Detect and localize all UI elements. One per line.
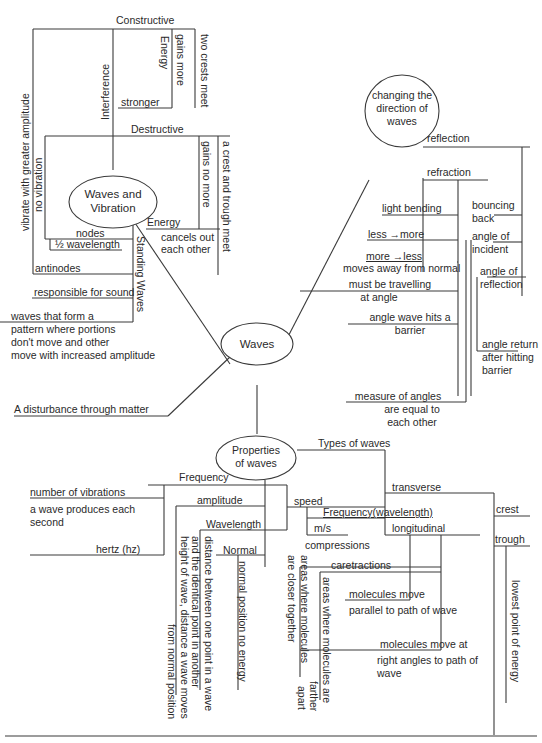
- label-energy-1: Energy: [158, 36, 171, 69]
- label-amplitude-def: height of wave, distance a wave moves fr…: [165, 536, 191, 719]
- label-speed: speed: [294, 495, 323, 508]
- label-trough: trough: [495, 533, 525, 546]
- waves-node[interactable]: Waves: [221, 337, 293, 351]
- label-hertz: hertz (hz): [96, 543, 140, 556]
- label-reflection: reflection: [427, 132, 470, 145]
- label-responsible-sound: responsible for sound: [34, 286, 134, 299]
- label-no-vibration: no vibration: [32, 158, 45, 212]
- angle-return-line-2: after hitting: [482, 351, 538, 364]
- label-bouncing-back: bouncing back: [472, 199, 515, 225]
- angle-reflection-line-1: angle of: [480, 265, 523, 278]
- label-number-vibrations: number of vibrations: [30, 486, 125, 499]
- label-destructive: Destructive: [131, 123, 184, 136]
- properties-node[interactable]: Properties of waves: [216, 444, 296, 470]
- label-frequency: Frequency: [179, 471, 229, 484]
- label-energy-2: Energy: [147, 216, 180, 229]
- wavelength-def-line-1: distance between one point in a wave: [202, 536, 215, 711]
- label-half-wavelength: ½ wavelength: [55, 238, 120, 251]
- rarefaction-def-line-1: areas where molecules are: [320, 577, 333, 711]
- bouncing-back-line-2: back: [472, 212, 515, 225]
- label-normal-position: normal position no energy: [236, 561, 249, 682]
- label-gains-no-more: gains no more: [200, 141, 213, 208]
- label-interference: Interference: [99, 64, 112, 120]
- angle-return-line-3: barrier: [482, 364, 538, 377]
- measure-angles-line-2: are equal to: [364, 403, 460, 416]
- rarefaction-def-line-2: farther: [307, 577, 320, 711]
- label-rarefaction-apart: apart: [295, 686, 308, 710]
- label-stronger: stronger: [121, 96, 160, 109]
- amplitude-def-line-2: from normal position: [165, 536, 178, 719]
- label-cancels-out: cancels out each other: [161, 231, 214, 255]
- label-ms: m/s: [314, 522, 331, 535]
- standing-def-line-3: don't move and other: [11, 336, 155, 349]
- label-measure-angles: measure of angles are equal to each othe…: [350, 390, 460, 429]
- label-angle-reflection: angle of reflection: [480, 265, 523, 291]
- molecules-parallel-line-1: molecules move: [349, 588, 457, 601]
- changing-direction-line-2: direction of: [365, 102, 439, 115]
- waves-vibration-node[interactable]: Waves and Vibration: [69, 187, 157, 215]
- angle-incident-line-1: angle of: [472, 230, 509, 243]
- bouncing-back-line-1: bouncing: [472, 199, 515, 212]
- standing-def-line-2: pattern where portions: [11, 323, 155, 336]
- molecules-right-line-3: wave: [377, 667, 478, 680]
- cancels-out-line-1: cancels out: [161, 231, 214, 243]
- label-antinodes: antinodes: [35, 262, 81, 275]
- label-wavelength: Wavelength: [206, 518, 261, 531]
- label-standing-waves: Standing Waves: [134, 236, 147, 312]
- measure-angles-line-3: each other: [364, 416, 460, 429]
- concept-map-canvas: Waves Waves and Vibration changing the d…: [0, 0, 542, 743]
- label-molecules-parallel: molecules move parallel to path of wave: [349, 588, 457, 617]
- label-less-more: less →more: [368, 228, 424, 241]
- label-gains-more: gains more: [174, 34, 187, 86]
- label-refraction: refraction: [427, 166, 471, 179]
- label-normal: Normal: [223, 544, 257, 557]
- label-vibrate-greater: vibrate with greater amplitude: [19, 93, 32, 231]
- angle-reflection-line-2: reflection: [480, 278, 523, 291]
- waves-vibration-line-2: Vibration: [69, 201, 157, 215]
- label-amplitude: amplitude: [197, 494, 243, 507]
- properties-line-2: of waves: [216, 457, 296, 470]
- waves-node-label: Waves: [240, 338, 275, 350]
- label-two-crests-meet: two crests meet: [198, 34, 211, 108]
- changing-direction-line-3: waves: [365, 115, 439, 128]
- wave-produces-line-2: second: [30, 516, 135, 529]
- connector-lines: [0, 0, 542, 743]
- label-wave-produces: a wave produces each second: [30, 503, 135, 529]
- label-longitudinal: longitudinal: [392, 522, 445, 535]
- label-wavelength-def: distance between one point in a wave and…: [189, 536, 215, 711]
- measure-angles-line-1: measure of angles: [336, 390, 460, 403]
- must-travel-line-1: must be travelling: [335, 278, 445, 291]
- label-crest-trough-meet: a crest and trough meet: [220, 141, 233, 252]
- angle-wave-hits-line-2: barrier: [365, 324, 455, 337]
- label-crest: crest: [496, 503, 519, 516]
- angle-incident-line-2: incident: [472, 243, 509, 256]
- angle-return-line-1: angle return: [482, 338, 538, 351]
- label-rarefaction-def: areas where molecules are farther: [307, 577, 333, 711]
- molecules-right-line-1: molecules move at: [377, 638, 478, 651]
- label-molecules-right: molecules move at right angles to path o…: [377, 638, 478, 680]
- label-freq-wavelength: Frequency(wavelength): [323, 506, 433, 519]
- cancels-out-line-2: each other: [161, 243, 214, 255]
- label-constructive: Constructive: [116, 14, 174, 27]
- label-light-bending: light bending: [382, 202, 442, 215]
- label-standing-definition: waves that form a pattern where portions…: [11, 310, 155, 362]
- changing-direction-node[interactable]: changing the direction of waves: [365, 89, 439, 128]
- amplitude-def-line-1: height of wave, distance a wave moves: [178, 536, 191, 719]
- properties-line-1: Properties: [216, 444, 296, 457]
- waves-vibration-line-1: Waves and: [69, 187, 157, 201]
- label-transverse: transverse: [392, 481, 441, 494]
- wave-produces-line-1: a wave produces each: [30, 503, 135, 516]
- molecules-right-line-2: right angles to path of: [377, 654, 478, 667]
- standing-def-line-1: waves that form a: [11, 310, 155, 323]
- label-compressions: compressions: [305, 539, 370, 552]
- label-caretractions: caretractions: [331, 559, 391, 572]
- rarefaction-farther: farther: [308, 681, 320, 711]
- label-lowest-point: lowest point of energy: [509, 580, 522, 682]
- changing-direction-line-1: changing the: [365, 89, 439, 102]
- compressions-def-line-2: are closer together: [285, 555, 298, 663]
- label-must-travel: must be travelling at angle: [335, 278, 445, 304]
- angle-wave-hits-line-1: angle wave hits a: [365, 311, 455, 324]
- label-angle-return: angle return after hitting barrier: [482, 338, 538, 377]
- molecules-parallel-line-2: parallel to path of wave: [349, 604, 457, 617]
- label-moves-away: moves away from normal: [343, 262, 460, 275]
